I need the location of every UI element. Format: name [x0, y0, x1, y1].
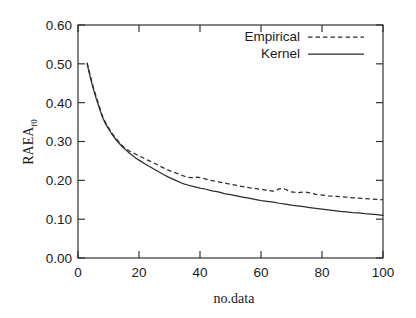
y-tick-label-050: 0.50 — [46, 57, 72, 72]
y-tick-label-020: 0.20 — [46, 173, 72, 188]
y-tick-label-000: 0.00 — [46, 251, 72, 266]
y-tick-label-030: 0.30 — [46, 134, 72, 149]
y-tick-label-010: 0.10 — [46, 212, 72, 227]
x-axis-title: no.data — [214, 291, 256, 306]
x-tick-label-80: 80 — [314, 265, 329, 280]
x-tick-label-0: 0 — [74, 265, 82, 280]
x-tick-label-40: 40 — [192, 265, 207, 280]
legend-label-kernel: Kernel — [261, 46, 300, 61]
y-tick-label-040: 0.40 — [46, 96, 72, 111]
chart-legend: Empirical Kernel — [244, 29, 364, 61]
y-axis-title-subscript: f0 — [29, 119, 39, 127]
series-line-kernel — [87, 64, 383, 215]
x-axis: 0 20 40 60 80 100 — [74, 25, 394, 280]
chart-figure: 0.60 0.50 0.40 0.30 0.20 0.10 0.00 0 — [0, 0, 416, 318]
x-tick-label-20: 20 — [131, 265, 146, 280]
x-tick-label-100: 100 — [372, 265, 395, 280]
x-tick-label-60: 60 — [253, 265, 268, 280]
svg-text:RAEAf0: RAEAf0 — [21, 119, 39, 165]
legend-label-empirical: Empirical — [244, 29, 300, 44]
series-layer — [87, 63, 383, 216]
y-axis-title-main: RAEA — [21, 126, 36, 165]
line-chart: 0.60 0.50 0.40 0.30 0.20 0.10 0.00 0 — [0, 0, 416, 318]
series-line-empirical — [87, 63, 383, 200]
y-axis: 0.60 0.50 0.40 0.30 0.20 0.10 0.00 — [46, 18, 383, 266]
plot-frame — [78, 25, 383, 258]
y-axis-title: RAEAf0 — [21, 119, 39, 165]
y-tick-label-060: 0.60 — [46, 18, 72, 33]
